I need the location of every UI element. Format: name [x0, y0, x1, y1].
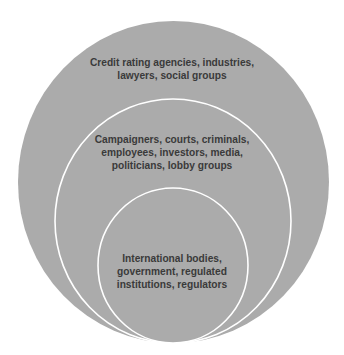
middle-ring-label-line: politicians, lobby groups	[0, 159, 344, 172]
middle-ring-label-line: Campaigners, courts, criminals,	[0, 133, 344, 146]
inner-ring-label: International bodies, government, regula…	[0, 252, 344, 291]
inner-ring-label-line: institutions, regulators	[0, 278, 344, 291]
middle-ring-label-line: employees, investors, media,	[0, 146, 344, 159]
inner-ring-label-line: International bodies,	[0, 252, 344, 265]
outer-ring-label: Credit rating agencies, industries, lawy…	[0, 56, 344, 82]
inner-ring-label-line: government, regulated	[0, 265, 344, 278]
outer-ring-label-line: lawyers, social groups	[0, 69, 344, 82]
nested-circles-diagram	[0, 0, 344, 355]
outer-ring-label-line: Credit rating agencies, industries,	[0, 56, 344, 69]
middle-ring-label: Campaigners, courts, criminals, employee…	[0, 133, 344, 172]
